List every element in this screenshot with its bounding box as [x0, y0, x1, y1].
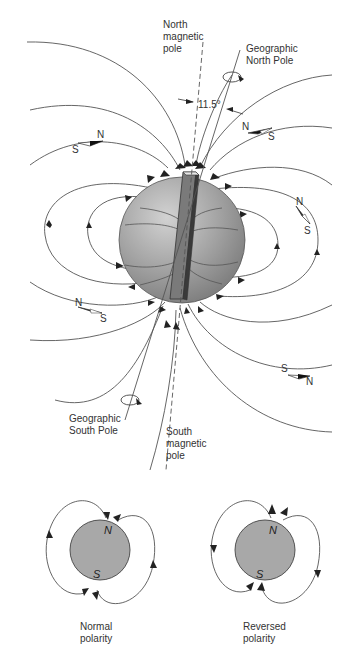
- reversed-south-label: S: [256, 568, 264, 580]
- reversed-polarity-diagram: N S Reversed polarity: [210, 501, 321, 644]
- compass-needle-upper-left: N S: [72, 129, 104, 155]
- svg-text:N: N: [296, 196, 303, 207]
- geographic-south-pole-label-2: South Pole: [69, 425, 118, 436]
- north-magnetic-pole-label-1: North: [163, 19, 187, 30]
- rotation-arrow-icon-north: [223, 72, 244, 82]
- south-magnetic-pole-label-3: pole: [166, 450, 185, 461]
- normal-south-label: S: [93, 568, 101, 580]
- svg-text:S: S: [100, 313, 107, 324]
- normal-polarity-caption-2: polarity: [80, 633, 112, 644]
- south-magnetic-pole-label-1: South: [166, 426, 192, 437]
- north-magnetic-pole-label-2: magnetic: [163, 31, 204, 42]
- geographic-south-pole-label-1: Geographic: [69, 413, 121, 424]
- compass-needle-right: N S: [296, 196, 311, 236]
- svg-text:S: S: [304, 225, 311, 236]
- reversed-polarity-caption-2: polarity: [243, 633, 275, 644]
- svg-text:S: S: [268, 131, 275, 142]
- earth-magnetic-field-diagram: 11.5° North magnetic pole Geographic Nor…: [0, 0, 348, 655]
- svg-text:N: N: [75, 297, 82, 308]
- svg-text:N: N: [242, 121, 249, 132]
- svg-text:S: S: [281, 363, 288, 374]
- svg-text:N: N: [97, 129, 104, 140]
- geographic-north-pole-label-2: North Pole: [246, 55, 294, 66]
- geographic-north-pole-label-1: Geographic: [246, 43, 298, 54]
- reversed-polarity-caption-1: Reversed: [243, 621, 286, 632]
- reversed-north-label: N: [269, 524, 277, 536]
- north-magnetic-pole-label-3: pole: [163, 43, 182, 54]
- normal-north-label: N: [104, 524, 112, 536]
- angle-marker: 11.5°: [178, 99, 243, 114]
- south-magnetic-pole-label-2: magnetic: [166, 438, 207, 449]
- normal-polarity-caption-1: Normal: [80, 621, 112, 632]
- svg-text:S: S: [72, 144, 79, 155]
- compass-needle-lower-right: S N: [281, 363, 313, 387]
- compass-needle-upper-right: N S: [242, 121, 275, 142]
- svg-text:N: N: [306, 376, 313, 387]
- normal-polarity-diagram: N S Normal polarity: [46, 501, 157, 644]
- compass-needle-lower-left: N S: [75, 297, 107, 324]
- angle-label: 11.5°: [198, 99, 221, 110]
